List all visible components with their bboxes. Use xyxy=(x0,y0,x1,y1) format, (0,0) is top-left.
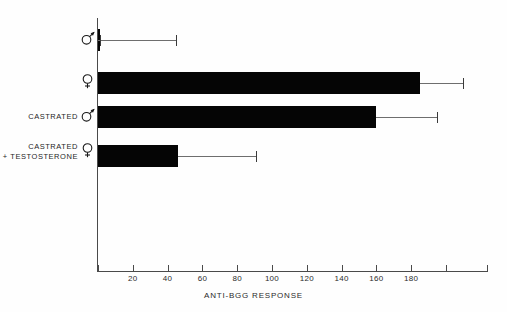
x-tick-label-80: 80 xyxy=(232,274,242,283)
x-tick-120 xyxy=(307,265,308,272)
male-symbol-icon xyxy=(80,30,96,50)
x-tick-label-40: 40 xyxy=(163,274,173,283)
category-label-text: CASTRATED xyxy=(28,112,78,122)
x-axis-right-endcap xyxy=(487,265,488,272)
category-label xyxy=(0,69,96,97)
error-bar-line xyxy=(98,40,176,41)
bar xyxy=(98,72,420,94)
error-bar-line xyxy=(178,156,256,157)
error-bar-cap xyxy=(463,78,464,89)
bar xyxy=(98,145,178,167)
x-tick-180 xyxy=(411,265,412,272)
x-tick-80 xyxy=(237,265,238,272)
x-tick-label-140: 140 xyxy=(334,274,348,283)
category-label xyxy=(0,26,96,54)
male-symbol-icon xyxy=(80,107,96,127)
x-tick-200 xyxy=(446,265,447,272)
x-tick-0 xyxy=(98,265,99,272)
female-symbol-icon xyxy=(80,73,96,93)
x-tick-140 xyxy=(342,265,343,272)
error-bar-cap-left xyxy=(100,35,101,46)
x-tick-60 xyxy=(202,265,203,272)
error-bar-cap xyxy=(437,112,438,123)
x-tick-label-100: 100 xyxy=(265,274,279,283)
error-bar-cap xyxy=(176,35,177,46)
x-tick-label-20: 20 xyxy=(128,274,138,283)
x-tick-label-180: 180 xyxy=(404,274,418,283)
x-tick-100 xyxy=(272,265,273,272)
category-label-text: CASTRATED+ TESTOSTERONE xyxy=(3,142,78,162)
chart-figure: 20406080100120140160180 ANTI-BGG RESPONS… xyxy=(0,0,507,312)
x-tick-160 xyxy=(376,265,377,272)
female-symbol-icon xyxy=(80,142,96,162)
error-bar-line xyxy=(376,117,437,118)
x-tick-20 xyxy=(133,265,134,272)
x-tick-label-60: 60 xyxy=(198,274,208,283)
x-tick-40 xyxy=(168,265,169,272)
category-label: CASTRATED+ TESTOSTERONE xyxy=(0,142,96,170)
x-axis-spine xyxy=(97,271,488,272)
category-label: CASTRATED xyxy=(0,103,96,131)
x-tick-label-120: 120 xyxy=(300,274,314,283)
error-bar-cap xyxy=(256,151,257,162)
x-axis-title: ANTI-BGG RESPONSE xyxy=(0,291,507,300)
error-bar-line xyxy=(420,83,464,84)
bar xyxy=(98,106,376,128)
x-tick-label-160: 160 xyxy=(369,274,383,283)
